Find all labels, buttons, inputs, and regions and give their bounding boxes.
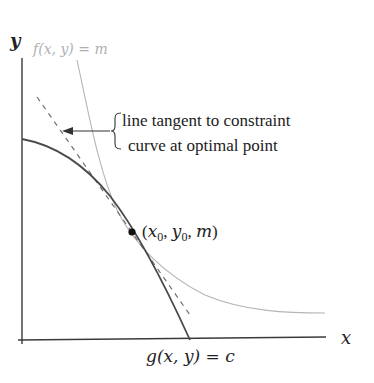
optimal-point (128, 228, 135, 235)
x-axis-label: x (341, 327, 351, 348)
lagrange-diagram: y x f(x, y) = m line tangent to constrai… (0, 0, 374, 383)
brace-icon (111, 113, 121, 149)
optimal-point-label: (x0, y0, m) (142, 221, 218, 244)
level-curve-f (77, 60, 325, 313)
constraint-curve-label: g(x, y) = c (146, 346, 235, 366)
tangent-annotation-line1: line tangent to constraint (122, 111, 291, 130)
tangent-annotation-line2: curve at optimal point (128, 136, 278, 155)
y-axis-label: y (9, 30, 22, 51)
arrow-head-icon (62, 127, 73, 135)
x-axis (18, 337, 326, 340)
level-curve-label: f(x, y) = m (32, 41, 108, 57)
diagram-canvas: y x f(x, y) = m line tangent to constrai… (0, 0, 374, 383)
